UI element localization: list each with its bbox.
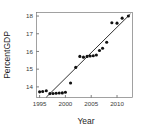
data-point xyxy=(98,49,101,52)
x-tick-label: 2000 xyxy=(59,100,73,107)
data-point xyxy=(82,56,85,59)
data-point xyxy=(55,92,58,95)
x-tick-label: 2010 xyxy=(110,100,124,107)
data-point xyxy=(58,92,61,95)
data-point xyxy=(86,55,89,58)
data-point xyxy=(45,89,48,92)
data-point xyxy=(69,81,72,84)
data-point xyxy=(105,41,108,44)
x-tick-label: 1995 xyxy=(33,100,47,107)
data-point xyxy=(92,54,95,57)
data-point xyxy=(41,90,44,93)
data-point xyxy=(61,91,64,94)
data-point xyxy=(110,21,113,24)
data-point xyxy=(127,14,130,17)
x-tick-label-group: 1995200020052010 xyxy=(33,100,125,107)
data-point xyxy=(78,55,81,58)
y-tick-label: 14 xyxy=(26,83,33,90)
chart-figure: 1415161718 1995200020052010 PercentGDP Y… xyxy=(0,0,145,129)
data-point xyxy=(115,22,118,25)
y-tick-label: 16 xyxy=(26,48,33,55)
x-tick-label: 2005 xyxy=(84,100,98,107)
data-point xyxy=(51,92,54,95)
data-point xyxy=(101,47,104,50)
data-point xyxy=(121,17,124,20)
y-tick-label-group: 1415161718 xyxy=(26,12,33,90)
data-point xyxy=(64,91,67,94)
y-axis-ticks xyxy=(37,16,40,87)
data-point xyxy=(48,92,51,95)
y-axis-label: PercentGDP xyxy=(2,31,12,79)
x-axis-label: Year xyxy=(77,116,94,126)
data-point xyxy=(74,66,77,69)
plot-frame-group xyxy=(37,13,133,98)
data-point xyxy=(95,53,98,56)
data-points-group xyxy=(38,14,130,95)
regression-line-group xyxy=(46,14,130,97)
y-tick-label: 18 xyxy=(26,12,33,19)
y-tick-label: 15 xyxy=(26,65,33,72)
data-point xyxy=(89,55,92,58)
x-axis-ticks xyxy=(40,95,117,98)
plot-frame xyxy=(37,13,133,98)
data-point xyxy=(38,90,41,93)
y-tick-label: 17 xyxy=(26,30,33,37)
regression-line xyxy=(46,14,130,97)
scatter-plot: 1415161718 1995200020052010 PercentGDP Y… xyxy=(0,0,145,129)
